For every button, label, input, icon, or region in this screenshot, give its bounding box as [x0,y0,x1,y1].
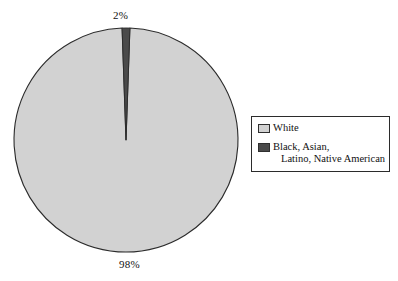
legend-label-other: Black, Asian, Latino, Native American [273,141,385,165]
legend-label-other-line2: Latino, Native American [273,153,385,165]
slice-label-white: 98% [119,258,140,270]
legend-swatch-other-icon [258,143,270,152]
legend-item-other[interactable]: Black, Asian, Latino, Native American [258,141,385,165]
slice-label-other: 2% [113,9,128,21]
pie-chart: 2% 98% White Black, Asian, Latino, Nativ… [0,0,398,281]
legend: White Black, Asian, Latino, Native Ameri… [251,116,390,172]
legend-label-white: White [273,122,299,134]
legend-swatch-white-icon [258,124,270,133]
legend-item-white[interactable]: White [258,122,299,134]
legend-label-other-line1: Black, Asian, [273,141,329,152]
